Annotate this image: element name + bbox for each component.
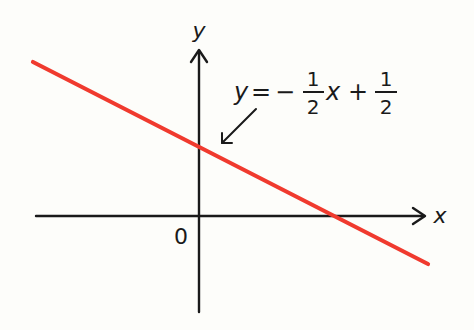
- y-axis-label: y: [191, 18, 206, 43]
- y-axis: [191, 50, 207, 312]
- equation-equals: =: [251, 78, 271, 106]
- fraction2-numerator: 1: [380, 67, 393, 91]
- equation-variable: x: [325, 78, 341, 106]
- equation-plus: +: [348, 78, 368, 106]
- fraction2-denominator: 2: [380, 95, 393, 119]
- function-line: [33, 62, 428, 264]
- equation-lhs: y: [233, 78, 249, 106]
- x-axis: [36, 208, 425, 224]
- equation-pointer-arrow-icon: [222, 109, 256, 143]
- fraction1-denominator: 2: [307, 95, 320, 119]
- origin-label: 0: [174, 224, 188, 249]
- linear-function-graph: y x 0 y = − 1 2 x + 1 2: [0, 0, 474, 330]
- equation-label: y = − 1 2 x + 1 2: [233, 67, 397, 119]
- x-axis-label: x: [432, 203, 447, 228]
- fraction1-numerator: 1: [307, 67, 320, 91]
- equation-minus: −: [275, 78, 295, 106]
